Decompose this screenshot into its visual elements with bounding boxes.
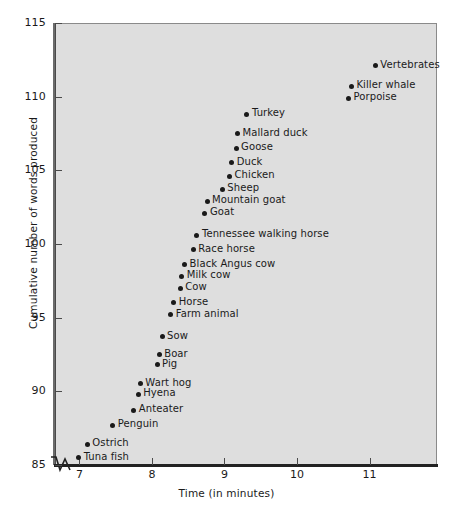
data-point[interactable]: [110, 423, 115, 428]
y-tick-mark: [55, 170, 62, 171]
data-point-label: Duck: [237, 156, 263, 167]
data-point[interactable]: [155, 362, 160, 367]
data-point-label: Goat: [210, 206, 234, 217]
data-point-label: Race horse: [198, 243, 255, 254]
data-point-label: Vertebrates: [380, 59, 439, 70]
data-point[interactable]: [349, 84, 354, 89]
y-tick-label: 90: [0, 384, 46, 397]
data-point-label: Milk cow: [187, 269, 231, 280]
data-point-label: Mallard duck: [243, 127, 308, 138]
data-point-label: Penguin: [118, 418, 159, 429]
data-point-label: Turkey: [252, 107, 285, 118]
x-tick-mark: [152, 458, 153, 465]
data-point-label: Goose: [241, 141, 273, 152]
data-point[interactable]: [220, 187, 225, 192]
x-tick-label: 8: [140, 468, 164, 481]
y-tick-label: 95: [0, 311, 46, 324]
x-axis-title: Time (in minutes): [0, 487, 453, 499]
x-tick-label: 10: [285, 468, 309, 481]
y-tick-mark: [55, 318, 62, 319]
y-tick-label: 105: [0, 163, 46, 176]
x-axis-line: [54, 464, 438, 467]
data-point[interactable]: [227, 174, 232, 179]
data-point-label: Chicken: [235, 169, 275, 180]
y-tick-label: 85: [0, 458, 46, 471]
data-point[interactable]: [234, 146, 239, 151]
y-tick-mark: [55, 391, 62, 392]
data-point-label: Boar: [164, 348, 188, 359]
data-point-label: Hyena: [143, 387, 176, 398]
y-tick-mark: [55, 23, 62, 24]
data-point[interactable]: [178, 286, 183, 291]
data-point-label: Horse: [179, 296, 209, 307]
data-point[interactable]: [136, 392, 141, 397]
data-point-label: Black Angus cow: [190, 258, 276, 269]
data-point-label: Sheep: [227, 182, 259, 193]
data-point-label: Farm animal: [176, 308, 239, 319]
x-tick-label: 7: [67, 468, 91, 481]
x-tick-label: 9: [212, 468, 236, 481]
scatter-plot-figure: 859095100105110115 7891011 Tuna fishOstr…: [0, 0, 453, 511]
y-axis-title-text: Cumulative number of words produced: [27, 117, 39, 329]
data-point-label: Mountain goat: [212, 194, 286, 205]
data-point-label: Wart hog: [145, 377, 191, 388]
data-point-label: Tuna fish: [84, 451, 129, 462]
data-point-label: Pig: [162, 358, 177, 369]
data-point[interactable]: [346, 96, 351, 101]
y-tick-label: 110: [0, 90, 46, 103]
y-tick-label: 100: [0, 237, 46, 250]
data-point[interactable]: [85, 442, 90, 447]
data-point[interactable]: [202, 211, 207, 216]
y-tick-label: 115: [0, 16, 46, 29]
data-point[interactable]: [205, 199, 210, 204]
x-tick-mark: [224, 458, 225, 465]
y-tick-mark: [55, 97, 62, 98]
x-tick-label: 11: [358, 468, 382, 481]
x-tick-mark: [370, 458, 371, 465]
data-point[interactable]: [235, 131, 240, 136]
data-point-label: Killer whale: [356, 79, 415, 90]
data-point-label: Cow: [185, 281, 207, 292]
data-point-label: Tennessee walking horse: [202, 228, 329, 239]
data-point-label: Anteater: [139, 403, 183, 414]
data-point-label: Porpoise: [354, 91, 397, 102]
x-tick-mark: [297, 458, 298, 465]
data-point-label: Ostrich: [92, 437, 128, 448]
y-axis-title: Cumulative number of words produced: [0, 212, 163, 231]
data-point[interactable]: [160, 334, 165, 339]
y-tick-mark: [55, 244, 62, 245]
y-tick-mark: [55, 465, 62, 466]
data-point-label: Sow: [167, 330, 188, 341]
data-point[interactable]: [157, 352, 162, 357]
